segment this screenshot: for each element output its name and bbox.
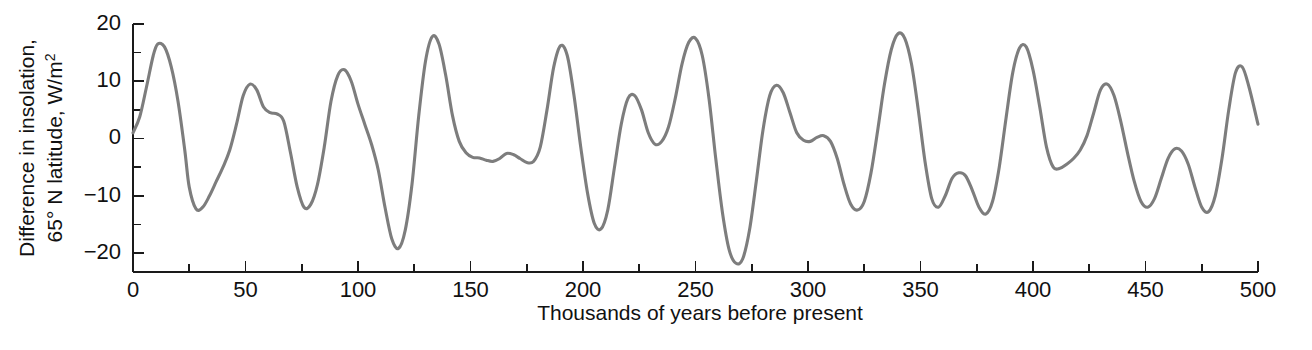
y-tick-label: −20 [84,239,121,264]
chart-figure: Difference in insolation, 65° N latitude… [0,0,1312,350]
x-tick-label: 300 [790,277,827,302]
y-tick-label: 0 [109,124,121,149]
y-axis-title: Difference in insolation, 65° N latitude… [15,39,66,257]
x-tick-label: 200 [565,277,602,302]
x-tick-label: 400 [1015,277,1052,302]
x-tick-label: 450 [1127,277,1164,302]
y-axis-title-line1: Difference in insolation, [15,39,38,257]
y-axis-title-superscript: 2 [42,53,58,61]
x-axis-title: Thousands of years before present [537,301,863,324]
data-curve-layer [133,33,1258,264]
axes-layer [133,24,1258,272]
x-tick-label: 0 [127,277,139,302]
x-tick-label: 50 [233,277,257,302]
insolation-line-chart: Difference in insolation, 65° N latitude… [0,0,1312,350]
y-axis-title-line2-text: 65° N latitude, W/m [43,61,66,242]
x-tick-label: 500 [1240,277,1277,302]
y-axis-title-line2: 65° N latitude, W/m2 [42,53,66,242]
y-tick-label: −10 [84,182,121,207]
insolation-curve [133,33,1258,264]
tick-labels-layer: −20−100102005010015020025030035040045050… [84,10,1277,302]
x-tick-label: 100 [340,277,377,302]
x-tick-label: 350 [902,277,939,302]
y-tick-label: 20 [97,10,121,35]
y-tick-label: 10 [97,67,121,92]
x-tick-label: 250 [677,277,714,302]
x-tick-label: 150 [452,277,489,302]
ticks-layer [133,24,1258,272]
